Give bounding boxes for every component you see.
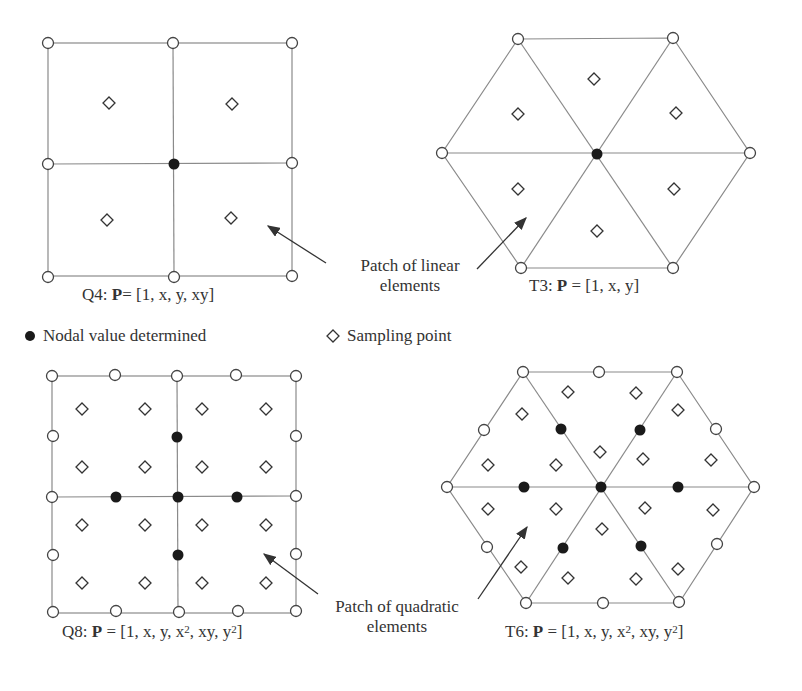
q4-boundary-nodes bbox=[43, 38, 298, 283]
t6-caption: T6: P = [1, x, y, x2, xy, y2] bbox=[505, 622, 683, 642]
quadratic-arrow-to-q8 bbox=[264, 554, 318, 594]
legend-sampling-point-label: Sampling point bbox=[347, 326, 451, 346]
t3-caption: T3: P = [1, x, y] bbox=[529, 276, 639, 296]
linear-arrow-to-q4 bbox=[268, 226, 326, 263]
legend-nodal-value-label: Nodal value determined bbox=[43, 326, 206, 346]
t3-nodal-value-node bbox=[592, 149, 603, 160]
q4-nodal-value-node bbox=[169, 159, 180, 170]
linear-arrow-to-t3 bbox=[477, 218, 526, 269]
quadratic-patch-annotation: Patch of quadratic elements bbox=[312, 597, 482, 637]
q8-caption: Q8: P = [1, x, y, x2, xy, y2] bbox=[62, 622, 242, 642]
q4-caption: Q4: P= [1, x, y, xy] bbox=[82, 285, 214, 305]
legend-filled-dot-icon bbox=[25, 331, 35, 341]
q4-mesh bbox=[48, 43, 292, 276]
legend-sampling-diamond-icon bbox=[327, 330, 339, 342]
linear-patch-annotation: Patch of linear elements bbox=[340, 256, 480, 296]
